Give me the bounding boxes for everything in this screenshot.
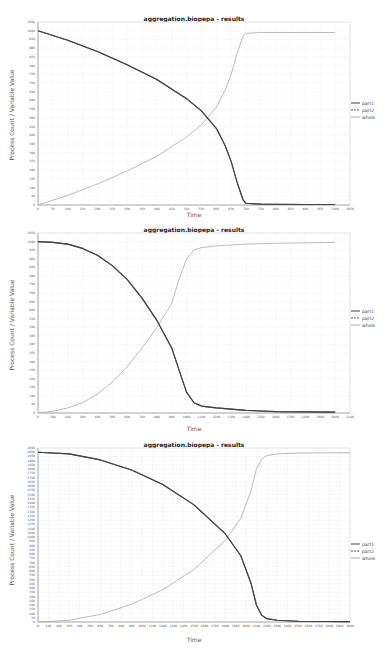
- svg-text:350: 350: [29, 351, 35, 355]
- svg-text:650: 650: [29, 300, 35, 304]
- svg-text:250: 250: [109, 207, 115, 211]
- svg-text:350: 350: [29, 142, 35, 146]
- svg-text:700: 700: [108, 624, 114, 628]
- svg-text:1050: 1050: [27, 231, 35, 235]
- chart-1-svg: aggregation.biopepa - results 0501001502…: [0, 0, 392, 220]
- svg-text:2700: 2700: [315, 624, 323, 628]
- svg-text:1650: 1650: [27, 480, 35, 484]
- svg-text:1300: 1300: [27, 510, 35, 514]
- svg-text:1700: 1700: [211, 624, 219, 628]
- svg-text:1000: 1000: [331, 207, 339, 211]
- svg-text:2400: 2400: [284, 624, 292, 628]
- svg-text:2100: 2100: [253, 624, 261, 628]
- svg-text:400: 400: [77, 624, 83, 628]
- legend-whole: whole: [362, 115, 376, 120]
- svg-text:750: 750: [258, 207, 264, 211]
- svg-text:750: 750: [29, 282, 35, 286]
- svg-text:200: 200: [29, 603, 35, 607]
- svg-text:650: 650: [29, 90, 35, 94]
- svg-text:750: 750: [29, 72, 35, 76]
- svg-text:0: 0: [33, 203, 35, 207]
- svg-text:1900: 1900: [232, 624, 240, 628]
- svg-text:1050: 1050: [27, 20, 35, 24]
- svg-text:900: 900: [169, 415, 175, 419]
- svg-text:1800: 1800: [221, 624, 229, 628]
- svg-text:800: 800: [29, 274, 35, 278]
- svg-text:150: 150: [29, 607, 35, 611]
- svg-text:1800: 1800: [302, 415, 310, 419]
- svg-text:500: 500: [109, 415, 115, 419]
- svg-text:600: 600: [29, 569, 35, 573]
- svg-text:400: 400: [29, 586, 35, 590]
- svg-text:600: 600: [29, 98, 35, 102]
- svg-text:1100: 1100: [198, 415, 206, 419]
- svg-text:450: 450: [29, 125, 35, 129]
- chart-3: aggregation.biopepa - results 0501001502…: [0, 435, 392, 653]
- legend-part1: part1: [362, 309, 374, 314]
- svg-text:400: 400: [29, 342, 35, 346]
- svg-text:100: 100: [46, 624, 52, 628]
- svg-text:450: 450: [29, 334, 35, 338]
- svg-text:1450: 1450: [27, 497, 35, 501]
- legend: part1 part2 whole: [351, 309, 376, 328]
- svg-text:1850: 1850: [27, 463, 35, 467]
- svg-text:850: 850: [288, 207, 294, 211]
- svg-text:0: 0: [33, 411, 35, 415]
- svg-text:2600: 2600: [305, 624, 313, 628]
- svg-text:1200: 1200: [27, 518, 35, 522]
- legend-part2: part2: [362, 316, 374, 321]
- svg-text:700: 700: [29, 81, 35, 85]
- svg-text:750: 750: [29, 556, 35, 560]
- svg-text:1800: 1800: [27, 467, 35, 471]
- svg-text:300: 300: [124, 207, 130, 211]
- svg-text:0: 0: [37, 624, 39, 628]
- svg-text:2200: 2200: [263, 624, 271, 628]
- svg-text:500: 500: [87, 624, 93, 628]
- svg-text:650: 650: [29, 565, 35, 569]
- svg-text:400: 400: [29, 133, 35, 137]
- grid: [38, 448, 350, 622]
- svg-text:1400: 1400: [27, 501, 35, 505]
- x-axis-label: Time: [186, 425, 202, 432]
- svg-text:1500: 1500: [190, 624, 198, 628]
- svg-text:900: 900: [129, 624, 135, 628]
- svg-text:500: 500: [29, 325, 35, 329]
- svg-text:650: 650: [228, 207, 234, 211]
- svg-text:1000: 1000: [183, 415, 191, 419]
- svg-text:1900: 1900: [316, 415, 324, 419]
- svg-text:1050: 1050: [27, 531, 35, 535]
- svg-text:800: 800: [273, 207, 279, 211]
- y-axis-label: Process Count / Variable Value: [8, 279, 15, 370]
- svg-text:500: 500: [29, 578, 35, 582]
- svg-text:1300: 1300: [169, 624, 177, 628]
- svg-text:1300: 1300: [227, 415, 235, 419]
- svg-text:100: 100: [29, 394, 35, 398]
- svg-text:1150: 1150: [27, 522, 35, 526]
- svg-text:1100: 1100: [27, 527, 35, 531]
- svg-text:550: 550: [29, 107, 35, 111]
- svg-text:1200: 1200: [212, 415, 220, 419]
- legend-part2: part2: [362, 108, 374, 113]
- svg-text:800: 800: [29, 552, 35, 556]
- legend-part1: part1: [362, 542, 374, 547]
- svg-text:100: 100: [29, 186, 35, 190]
- svg-text:0: 0: [33, 620, 35, 624]
- svg-text:1600: 1600: [272, 415, 280, 419]
- svg-text:200: 200: [56, 624, 62, 628]
- svg-text:200: 200: [95, 207, 101, 211]
- svg-text:800: 800: [118, 624, 124, 628]
- svg-text:2900: 2900: [336, 624, 344, 628]
- svg-text:850: 850: [29, 265, 35, 269]
- svg-text:2000: 2000: [242, 624, 250, 628]
- chart-2: aggregation.biopepa - results 0501001502…: [0, 220, 392, 435]
- svg-text:1700: 1700: [287, 415, 295, 419]
- svg-text:800: 800: [29, 64, 35, 68]
- chart-1: aggregation.biopepa - results 0501001502…: [0, 0, 392, 220]
- legend-part1: part1: [362, 101, 374, 106]
- svg-text:450: 450: [29, 582, 35, 586]
- svg-text:900: 900: [303, 207, 309, 211]
- legend-whole: whole: [362, 556, 376, 561]
- svg-text:900: 900: [29, 257, 35, 261]
- svg-text:950: 950: [317, 207, 323, 211]
- svg-text:50: 50: [51, 207, 55, 211]
